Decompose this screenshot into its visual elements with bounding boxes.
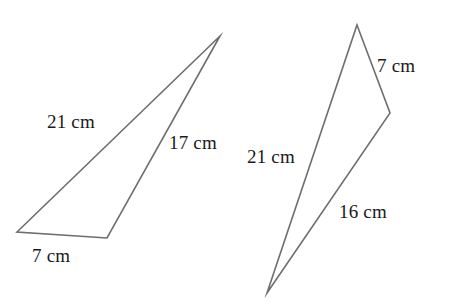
right-triangle-label-21cm: 21 cm — [247, 147, 295, 166]
geometry-figure: 21 cm 17 cm 7 cm 7 cm 21 cm 16 cm — [0, 0, 451, 307]
right-triangle-label-7cm: 7 cm — [377, 56, 415, 75]
left-triangle-label-17cm: 17 cm — [169, 133, 217, 152]
left-triangle-label-21cm: 21 cm — [47, 112, 95, 131]
right-triangle-label-16cm: 16 cm — [339, 202, 387, 221]
left-triangle-label-7cm: 7 cm — [32, 246, 70, 265]
